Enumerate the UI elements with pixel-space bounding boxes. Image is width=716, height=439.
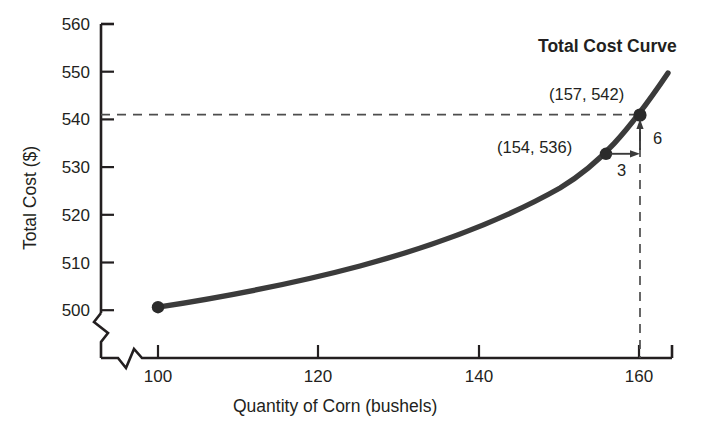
point-label-157-542: (157, 542) bbox=[549, 86, 624, 103]
run-arrow bbox=[610, 150, 640, 157]
curve-title-annotation: Total Cost Curve bbox=[538, 38, 677, 56]
y-axis-title: Total Cost ($) bbox=[22, 146, 40, 250]
y-axis bbox=[94, 24, 114, 358]
x-tick-marks bbox=[158, 345, 639, 358]
x-axis bbox=[101, 345, 672, 368]
x-tick-label-160: 160 bbox=[609, 368, 669, 385]
y-tick-label-550: 550 bbox=[38, 64, 90, 81]
y-tick-label-500: 500 bbox=[38, 302, 90, 319]
total-cost-curve-chart: 560 550 540 530 520 510 500 100 120 140 … bbox=[0, 0, 716, 439]
y-tick-label-530: 530 bbox=[38, 159, 90, 176]
y-tick-label-520: 520 bbox=[38, 207, 90, 224]
y-tick-marks bbox=[101, 72, 114, 311]
x-tick-label-100: 100 bbox=[128, 368, 188, 385]
point-label-154-536: (154, 536) bbox=[497, 139, 572, 156]
total-cost-curve-line bbox=[158, 73, 668, 307]
delta-y-label: 6 bbox=[653, 130, 662, 147]
y-tick-label-560: 560 bbox=[38, 16, 90, 33]
x-tick-label-120: 120 bbox=[288, 368, 348, 385]
y-tick-label-510: 510 bbox=[38, 255, 90, 272]
x-tick-label-140: 140 bbox=[449, 368, 509, 385]
x-axis-title: Quantity of Corn (bushels) bbox=[233, 398, 437, 416]
delta-x-label: 3 bbox=[617, 162, 626, 179]
y-tick-label-540: 540 bbox=[38, 111, 90, 128]
data-point-marker-100-500 bbox=[152, 301, 164, 313]
rise-arrow bbox=[636, 119, 643, 150]
